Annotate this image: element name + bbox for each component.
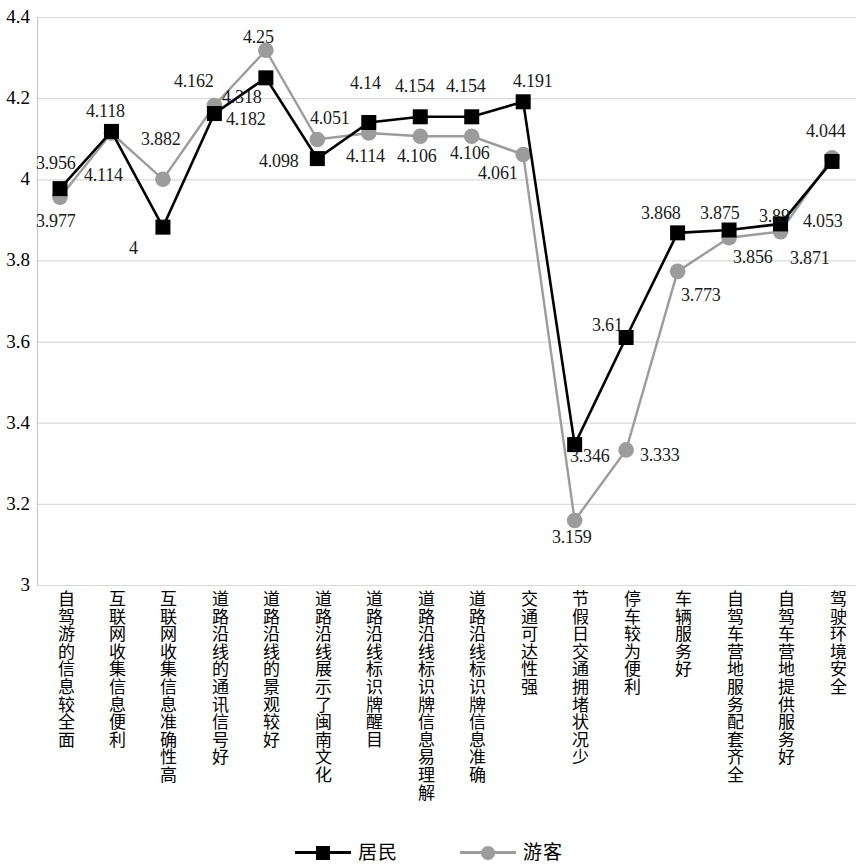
data-value-label: 3.856 <box>733 248 773 266</box>
y-axis-tick-label: 3.2 <box>0 494 30 513</box>
x-axis-category-label: 互联网收集信息准确性高 <box>150 590 176 784</box>
chart-legend: 居民游客 <box>0 836 858 868</box>
data-value-label: 3.956 <box>36 154 76 172</box>
series-tourists <box>52 42 840 528</box>
data-point-marker <box>516 94 531 109</box>
x-axis-category-label: 互联网收集信息便利 <box>98 590 124 748</box>
data-point-marker <box>670 264 686 280</box>
legend-item[interactable]: 游客 <box>460 843 563 862</box>
data-value-label: 4.318 <box>222 88 262 106</box>
data-point-marker <box>310 151 325 166</box>
data-value-label: 3.159 <box>552 528 592 546</box>
data-value-label: 4.106 <box>450 144 490 162</box>
x-axis-category-label: 驾驶环境安全 <box>819 590 845 696</box>
data-value-label: 3.882 <box>141 130 181 148</box>
data-value-label: 4.154 <box>395 77 435 95</box>
data-point-marker <box>825 154 840 169</box>
data-value-label: 3.346 <box>570 447 610 465</box>
x-axis-category-label: 道路沿线展示了闽南文化 <box>304 590 330 784</box>
data-value-label: 3.89 <box>759 207 790 225</box>
legend-item[interactable]: 居民 <box>295 843 398 862</box>
data-value-label: 3.871 <box>790 249 830 267</box>
data-point-marker <box>104 124 119 139</box>
y-axis-tick-label: 3.8 <box>0 250 30 269</box>
legend-marker-icon <box>460 845 516 859</box>
data-value-label: 3.875 <box>700 204 740 222</box>
x-axis-category-label: 车辆服务好 <box>665 590 691 678</box>
y-axis-tick-label: 4.2 <box>0 88 30 107</box>
y-axis-tick-label: 4.4 <box>0 7 30 26</box>
data-point-marker <box>464 109 479 124</box>
data-value-label: 4.154 <box>446 77 486 95</box>
gridlines <box>37 18 856 586</box>
data-value-label: 3.977 <box>36 212 76 230</box>
x-axis-category-label: 停车较为便利 <box>613 590 639 696</box>
data-value-label: 3.61 <box>592 316 623 334</box>
x-axis-category-label: 道路沿线标识牌信息准确 <box>459 590 485 784</box>
data-value-label: 4.044 <box>806 122 846 140</box>
line-chart-plot-area: 33.23.43.63.844.24.4 3.9774.11844.1624.2… <box>0 0 858 600</box>
data-value-label: 4.061 <box>478 164 518 182</box>
data-point-marker <box>464 128 480 144</box>
x-axis-category-label: 交通可达性强 <box>510 590 536 696</box>
y-axis-tick-label: 3.6 <box>0 332 30 351</box>
x-axis-category-label: 节假日交通拥堵状况少 <box>562 590 588 766</box>
data-value-label: 4.114 <box>346 147 385 165</box>
data-value-label: 4.25 <box>243 28 274 46</box>
data-point-marker <box>670 225 685 240</box>
data-point-marker <box>207 106 222 121</box>
y-axis-tick-label: 4 <box>0 169 30 188</box>
data-value-label: 4.191 <box>513 72 553 90</box>
data-point-marker <box>53 181 68 196</box>
x-axis-category-label: 道路沿线的景观较好 <box>253 590 279 748</box>
data-point-marker <box>413 109 428 124</box>
data-value-label: 4.114 <box>84 166 123 184</box>
legend-label: 居民 <box>358 843 398 862</box>
x-axis-category-labels: 自驾游的信息较全面互联网收集信息便利互联网收集信息准确性高道路沿线的通讯信号好道… <box>0 586 858 834</box>
x-axis-category-label: 自驾游的信息较全面 <box>47 590 73 748</box>
data-value-label: 4.14 <box>350 74 381 92</box>
x-axis-category-label: 道路沿线标识牌信息易理解 <box>407 590 433 801</box>
data-value-label: 3.333 <box>640 446 680 464</box>
data-point-marker <box>155 220 170 235</box>
data-value-label: 4.106 <box>397 147 437 165</box>
data-value-label: 4.051 <box>310 109 350 127</box>
data-value-label: 4.098 <box>259 152 299 170</box>
data-point-marker <box>155 171 171 187</box>
data-value-label: 4 <box>129 239 138 257</box>
legend-label: 游客 <box>523 843 563 862</box>
data-point-marker <box>722 223 737 238</box>
data-point-marker <box>361 115 376 130</box>
data-point-marker <box>258 70 273 85</box>
data-value-label: 3.868 <box>641 204 681 222</box>
y-axis-tick-label: 3.4 <box>0 413 30 432</box>
chart-page: 33.23.43.63.844.24.4 3.9774.11844.1624.2… <box>0 0 858 868</box>
data-point-marker <box>310 132 326 148</box>
data-point-marker <box>515 147 531 163</box>
data-value-label: 4.053 <box>803 212 843 230</box>
data-point-marker <box>567 513 583 529</box>
data-value-label: 4.118 <box>86 102 125 120</box>
x-axis-category-label: 自驾车营地服务配套齐全 <box>716 590 742 784</box>
data-value-label: 3.773 <box>681 286 721 304</box>
legend-marker-icon <box>295 845 351 859</box>
data-value-label: 4.182 <box>226 110 266 128</box>
x-axis-category-label: 道路沿线的通讯信号好 <box>201 590 227 766</box>
data-point-marker <box>412 128 428 144</box>
x-axis-category-label: 自驾车营地提供服务好 <box>768 590 794 766</box>
x-axis-category-label: 道路沿线标识牌醒目 <box>356 590 382 748</box>
data-value-label: 4.162 <box>174 72 214 90</box>
data-point-marker <box>618 442 634 458</box>
